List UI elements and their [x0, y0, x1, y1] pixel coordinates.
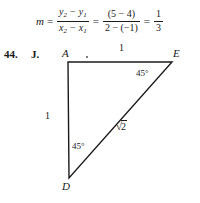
angle-label-E: 45° [136, 68, 149, 78]
substituted-numerator: (5 − 4) [106, 9, 137, 20]
slope-substituted-fraction: (5 − 4) 2 − (−1) [103, 9, 140, 33]
worksheet-page: m = y2−y1 x2−x1 = (5 − 4) 2 − (−1) = 1 3… [0, 0, 200, 203]
formula-variable-m: m [36, 15, 44, 27]
equals-sign-2: = [93, 15, 99, 27]
vertex-label-E: E [173, 47, 180, 59]
slope-general-numerator: y2−y1 [57, 7, 89, 19]
radicand-value: 2 [121, 120, 127, 132]
x2-subscript: 2 [64, 26, 68, 34]
denominator-minus: − [70, 22, 76, 33]
vertex-label-A: A [62, 47, 69, 59]
side-label-top: 1 [119, 42, 124, 53]
triangle-figure: A E D 1 1 √2 45° 45° [0, 38, 200, 203]
tick-dot-icon [86, 56, 88, 58]
result-numerator: 1 [154, 9, 163, 20]
substituted-denominator: 2 − (−1) [103, 23, 140, 34]
slope-general-fraction: y2−y1 x2−x1 [57, 7, 89, 35]
side-label-left: 1 [45, 110, 50, 121]
slope-result-fraction: 1 3 [154, 9, 163, 33]
equals-sign-3: = [144, 15, 150, 27]
slope-formula: m = y2−y1 x2−x1 = (5 − 4) 2 − (−1) = 1 3 [0, 4, 200, 38]
equals-sign-1: = [47, 15, 53, 27]
hypotenuse-label: √2 [116, 120, 127, 132]
x1-subscript: 1 [83, 26, 87, 34]
angle-label-D: 45° [72, 141, 85, 151]
numerator-minus: − [70, 6, 76, 17]
vertex-label-D: D [62, 180, 70, 192]
y1-subscript: 1 [83, 11, 87, 19]
y2-subscript: 2 [64, 11, 68, 19]
triangle-drawing [0, 38, 200, 203]
result-denominator: 3 [154, 23, 163, 34]
slope-general-denominator: x2−x1 [57, 23, 89, 35]
